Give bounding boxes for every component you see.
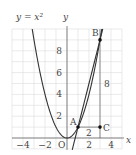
- y-tick-label: 8: [56, 46, 62, 56]
- x-tick-label: 4: [108, 140, 114, 150]
- ac-length-label: 2: [86, 128, 92, 138]
- y-tick-label: 4: [56, 89, 62, 99]
- y-tick-label: 2: [56, 111, 62, 121]
- curve-label: y = x²: [15, 12, 43, 22]
- point-c: [98, 125, 102, 129]
- x-tick-label: 2: [86, 140, 92, 150]
- point-b-label: B: [92, 28, 99, 38]
- point-c-label: C: [103, 123, 110, 133]
- point-a: [76, 125, 80, 129]
- origin-label: O: [58, 140, 65, 150]
- x-axis-label: x: [126, 135, 131, 145]
- point-a-label: A: [69, 117, 77, 127]
- x-tick-label: −4: [16, 140, 30, 150]
- bc-length-label: 8: [104, 79, 110, 89]
- x-tick-label: −2: [38, 140, 51, 150]
- point-b: [98, 38, 102, 42]
- parabola-diagram: y = x² y x O −4−224 2468 A B C 2 8: [0, 0, 136, 155]
- y-axis-label: y: [62, 12, 69, 22]
- y-tick-label: 6: [56, 68, 62, 78]
